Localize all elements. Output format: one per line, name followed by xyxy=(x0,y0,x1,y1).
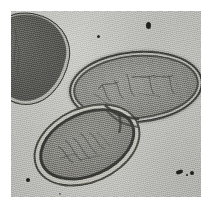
debris-speck xyxy=(97,35,100,38)
cytoplasm-grain xyxy=(11,11,72,107)
micrograph-plate xyxy=(11,11,201,197)
debris-speck xyxy=(146,22,151,29)
division-septum xyxy=(103,103,141,133)
cytoplasm xyxy=(11,11,72,107)
debris-speck xyxy=(190,171,194,175)
micrograph-viewport xyxy=(0,0,213,208)
debris-speck xyxy=(186,174,188,176)
debris-speck xyxy=(26,178,30,182)
debris-speck xyxy=(59,193,61,195)
